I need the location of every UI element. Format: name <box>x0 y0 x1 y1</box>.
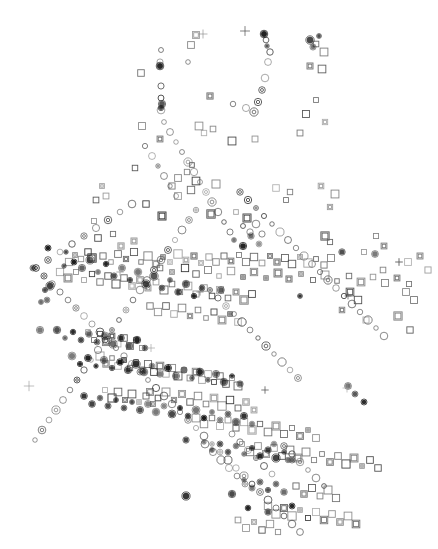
scatter-canvas <box>0 0 438 549</box>
scatter-plot <box>0 0 438 549</box>
